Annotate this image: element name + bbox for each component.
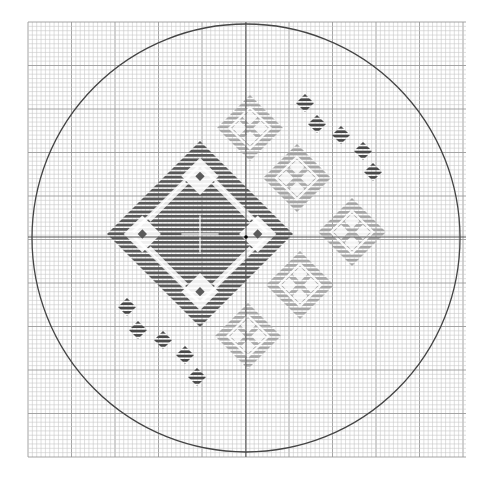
small-diamond-top-right-1: [296, 94, 314, 114]
small-diamond-bottom-left-1: [118, 298, 136, 318]
small-diamond-bottom-left-4: [176, 346, 194, 366]
large-dark-diamond: [107, 141, 293, 326]
large-diamond-body: [107, 141, 293, 326]
small-diamond-bottom-left-2: [129, 321, 147, 341]
center-dot: [244, 235, 248, 239]
pattern-chart: [0, 0, 495, 478]
light-diamond-2: [263, 144, 331, 212]
small-diamond-bottom-left-5: [188, 368, 206, 388]
small-diamond-top-right-5: [364, 163, 382, 183]
